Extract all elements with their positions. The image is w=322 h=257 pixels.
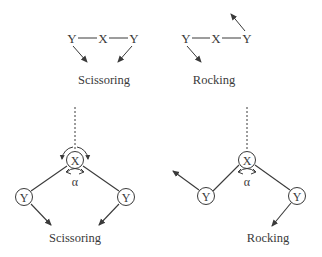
atom-y-left: Y xyxy=(181,31,191,46)
atom-x: X xyxy=(243,154,252,168)
atom-x: X xyxy=(98,31,108,46)
caption-scissoring-bottom: Scissoring xyxy=(49,231,102,245)
atom-y-left: Y xyxy=(20,191,29,205)
caption-rocking-bottom: Rocking xyxy=(247,231,290,245)
bond-left xyxy=(31,166,67,191)
atom-y-right: Y xyxy=(122,191,131,205)
angle-alpha: α xyxy=(72,175,79,189)
arrow-down-left-icon xyxy=(272,203,291,226)
angle-alpha: α xyxy=(244,175,251,189)
bottom-left-scissoring-bent: X α Y Y Scissoring xyxy=(16,107,135,245)
atom-x: X xyxy=(211,31,221,46)
vibration-modes-diagram: Y X Y Scissoring Y X Y Rocking X α xyxy=(0,0,322,257)
top-left-scissoring-linear: Y X Y Scissoring xyxy=(67,31,139,87)
bond-right xyxy=(255,165,290,190)
atom-y-right: Y xyxy=(129,31,139,46)
atom-y-left: Y xyxy=(202,190,211,204)
atom-x: X xyxy=(71,154,80,168)
atom-y-right: Y xyxy=(293,190,302,204)
arrow-down-right-icon xyxy=(31,204,51,225)
caption-scissoring-top: Scissoring xyxy=(78,73,131,87)
arrow-up-left-icon xyxy=(231,14,245,31)
arrow-down-right-icon xyxy=(187,46,201,62)
atom-y-right: Y xyxy=(242,31,252,46)
angle-arc xyxy=(67,169,83,172)
angle-arc xyxy=(239,169,255,172)
bond-right xyxy=(83,166,119,191)
arrow-down-left-icon xyxy=(99,204,119,225)
caption-rocking-top: Rocking xyxy=(193,73,236,87)
bottom-right-rocking-bent: X α Y Y Rocking xyxy=(173,107,306,245)
arrow-up-left-icon xyxy=(173,171,199,190)
arrow-down-left-icon xyxy=(118,46,132,62)
bond-left xyxy=(213,165,239,191)
top-right-rocking-linear: Y X Y Rocking xyxy=(181,14,252,87)
atom-y-left: Y xyxy=(67,31,77,46)
arrow-down-right-icon xyxy=(73,46,87,62)
